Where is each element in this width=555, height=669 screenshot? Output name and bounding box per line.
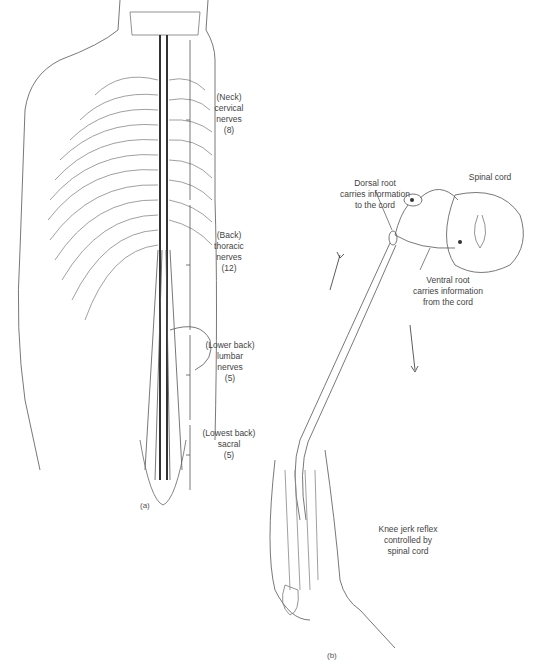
dorsal-root-label: Dorsal root carries information to the c… xyxy=(330,178,420,211)
sacral-nerves-label: (Lowest back) sacral (5) xyxy=(188,428,270,461)
spinal-nerves-diagram: (Neck) cervical nerves (8) (Back) thorac… xyxy=(0,0,555,669)
illustration xyxy=(0,0,555,669)
spinal-cord-label: Spinal cord xyxy=(455,172,525,183)
thoracic-nerves-label: (Back) thoracic nerves (12) xyxy=(200,230,258,274)
panel-b-caption: (b) xyxy=(327,651,337,660)
ventral-root-label: Ventral root carries information from th… xyxy=(403,275,493,308)
cervical-nerves-label: (Neck) cervical nerves (8) xyxy=(200,92,258,136)
lumbar-nerves-label: (Lower back) lumbar nerves (5) xyxy=(192,340,268,384)
panel-a-caption: (a) xyxy=(140,501,150,510)
knee-jerk-reflex-label: Knee jerk reflex controlled by spinal co… xyxy=(368,524,448,557)
